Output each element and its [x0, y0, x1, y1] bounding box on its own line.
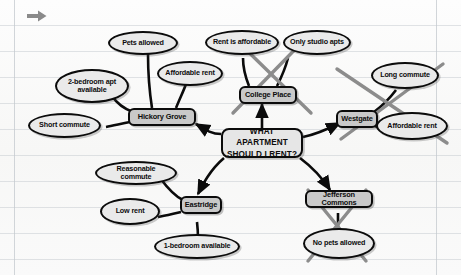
option-label-jefferson-commons: Jefferson Commons	[307, 191, 371, 208]
connector-center-to-jefferson-commons	[300, 158, 330, 190]
attribute-label-one-bedroom-available: 1-bedroom available	[160, 242, 234, 250]
attribute-label-affordable-rent-westgate: Affordable rent	[382, 122, 442, 130]
attribute-node-one-bedroom-available[interactable]: 1-bedroom available	[154, 234, 240, 259]
attribute-node-short-commute[interactable]: Short commute	[28, 113, 101, 138]
attribute-label-low-rent: Low rent	[106, 207, 154, 215]
attribute-label-two-bedroom-apt-available: 2-bedroom apt available	[61, 78, 123, 94]
arrow-right-icon	[26, 9, 48, 23]
attribute-node-two-bedroom-apt-available[interactable]: 2-bedroom apt available	[55, 69, 129, 103]
attribute-node-reasonable-commute[interactable]: Reasonable commute	[95, 161, 177, 185]
connector-center-to-eastridge	[198, 158, 224, 194]
attribute-label-rent-is-affordable: Rent is affordable	[211, 38, 273, 46]
attribute-label-only-studio-apts: Only studio apts	[289, 38, 345, 46]
option-label-hickory-grove: Hickory Grove	[130, 113, 194, 121]
attribute-label-long-commute: Long commute	[377, 71, 433, 79]
connector-center-to-westgate	[303, 123, 340, 137]
attribute-label-affordable-rent-hickory: Affordable rent	[163, 69, 217, 77]
option-label-eastridge: Eastridge	[182, 201, 220, 209]
attribute-label-short-commute: Short commute	[34, 121, 95, 129]
attribute-label-no-pets-allowed: No pets allowed	[309, 239, 369, 247]
option-node-jefferson-commons[interactable]: Jefferson Commons	[305, 190, 373, 208]
attribute-node-affordable-rent-westgate[interactable]: Affordable rent	[376, 112, 448, 140]
option-node-college-place[interactable]: College Place	[239, 86, 297, 104]
attribute-node-long-commute[interactable]: Long commute	[371, 62, 439, 89]
option-label-westgate: Westgate	[338, 115, 376, 123]
option-node-westgate[interactable]: Westgate	[336, 110, 378, 128]
attribute-node-pets-allowed[interactable]: Pets allowed	[108, 31, 178, 55]
center-question-line1: WHAT APARTMENT	[223, 126, 301, 148]
connector-center-to-hickory-grove	[196, 124, 221, 134]
attribute-node-affordable-rent-hickory[interactable]: Affordable rent	[157, 61, 223, 86]
mind-map-canvas: WHAT APARTMENT SHOULD I RENT? Hickory Gr…	[0, 0, 461, 275]
center-question-line2: SHOULD I RENT?	[223, 149, 301, 160]
attribute-label-reasonable-commute: Reasonable commute	[101, 165, 171, 181]
center-question-node[interactable]: WHAT APARTMENT SHOULD I RENT?	[221, 128, 303, 158]
attribute-node-no-pets-allowed[interactable]: No pets allowed	[303, 228, 375, 259]
option-node-hickory-grove[interactable]: Hickory Grove	[128, 108, 196, 126]
attribute-node-only-studio-apts[interactable]: Only studio apts	[283, 30, 351, 55]
option-label-college-place: College Place	[241, 91, 295, 99]
attribute-label-pets-allowed: Pets allowed	[114, 39, 172, 47]
option-node-eastridge[interactable]: Eastridge	[180, 196, 222, 214]
attribute-node-rent-is-affordable[interactable]: Rent is affordable	[205, 30, 279, 55]
attribute-node-low-rent[interactable]: Low rent	[100, 198, 160, 225]
